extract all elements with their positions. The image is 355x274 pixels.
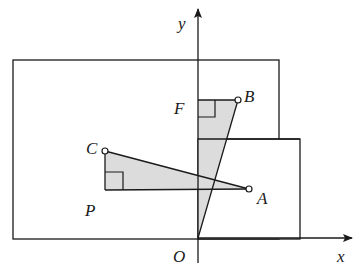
label-y: y xyxy=(176,14,186,33)
point-c-marker xyxy=(102,148,108,154)
label-c: C xyxy=(86,139,98,158)
coordinate-diagram: y x O B F C A P xyxy=(0,0,355,274)
label-origin: O xyxy=(173,247,185,266)
diagram-canvas: y x O B F C A P xyxy=(0,0,355,274)
point-b-marker xyxy=(235,97,241,103)
label-a: A xyxy=(256,189,268,208)
label-p: P xyxy=(84,201,95,220)
label-b: B xyxy=(244,87,255,106)
point-a-marker xyxy=(246,186,252,192)
label-f: F xyxy=(173,99,185,118)
label-x: x xyxy=(336,247,345,266)
